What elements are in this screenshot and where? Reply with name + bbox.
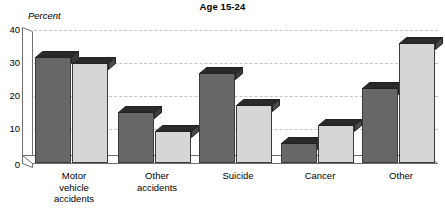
y-tick-label-10: 10 [0,123,20,134]
chart-container: Age 15-24 Percent [0,0,445,209]
y-tick-label-0: 0 [0,159,20,170]
bar-cancer-series2-3d [318,119,363,133]
x-category-label-cancer: Cancer [282,170,358,182]
bar-other-accidents-series2-3d [155,125,200,139]
bar-other-series1 [362,88,398,163]
bar-motor-vehicle-accidents-series2 [72,63,108,163]
y-tick-label-30: 30 [0,57,20,68]
gridline-40 [34,30,438,31]
bar-suicide-series2-3d [236,99,281,113]
bar-front-face [399,43,435,163]
x-category-line: vehicle [36,182,112,194]
x-category-label-motor-vehicle-accidents: Motor vehicle accidents [36,170,112,205]
x-category-line: Motor [36,170,112,182]
y-tick-label-20: 20 [0,90,20,101]
x-category-line: Other [119,170,195,182]
x-category-line: Other [363,170,439,182]
bar-other-series2 [399,43,435,163]
x-category-label-other-accidents: Other accidents [119,170,195,193]
bar-front-face [236,105,272,163]
y-axis-wall [22,27,34,167]
bar-motor-vehicle-accidents-series1 [35,57,71,163]
x-category-line: Suicide [200,170,276,182]
bar-suicide-series2 [236,105,272,163]
x-category-line: accidents [119,182,195,194]
bar-suicide-series1 [199,73,235,163]
x-category-line: Cancer [282,170,358,182]
bar-suicide-series1-3d [199,67,244,81]
bar-front-face [72,63,108,163]
x-category-line: accidents [36,193,112,205]
axis-wall-shape [22,27,36,169]
bar-motor-vehicle-accidents-series2-3d [72,57,117,71]
bar-other-accidents-series1-3d [118,106,163,120]
x-category-label-suicide: Suicide [200,170,276,182]
bar-other-series2-3d [399,37,444,51]
y-tick-label-40: 40 [0,24,20,35]
bar-front-face [35,57,71,163]
bar-front-face [362,88,398,163]
x-category-label-other: Other [363,170,439,182]
bar-front-face [199,73,235,163]
